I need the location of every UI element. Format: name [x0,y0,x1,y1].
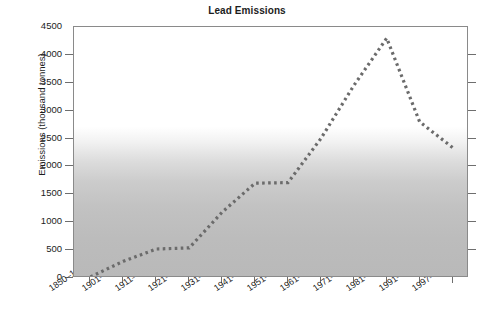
y-tick-mark-right [468,165,476,166]
y-tick-label: 500 [46,243,62,254]
series-dotted-line [90,38,452,277]
y-tick-label: 4500 [41,20,62,31]
y-tick-label: 3000 [41,104,62,115]
y-tick-mark [65,138,73,139]
y-tick-mark-right [468,110,476,111]
y-tick-label: 4000 [41,48,62,59]
y-tick-label: 2500 [41,132,62,143]
chart-title: Lead Emissions [0,5,494,16]
y-tick-mark [65,165,73,166]
plot-area [73,26,468,277]
y-tick-label: 2000 [41,159,62,170]
y-tick-mark [65,54,73,55]
y-tick-label: 1500 [41,187,62,198]
y-tick-label: 3500 [41,76,62,87]
y-tick-mark [65,193,73,194]
y-tick-mark-right [468,82,476,83]
y-tick-mark-right [468,138,476,139]
x-tick-mark [452,277,453,283]
y-tick-mark [65,82,73,83]
y-tick-mark-right [468,193,476,194]
series-lead-emissions [74,27,468,277]
y-tick-mark-right [468,54,476,55]
y-tick-label: 1000 [41,215,62,226]
y-tick-mark [65,221,73,222]
chart-figure: Lead Emissions Emissions (thousand tonne… [0,0,494,325]
y-tick-mark-right [468,221,476,222]
y-tick-mark-right [468,249,476,250]
y-tick-mark [65,110,73,111]
y-tick-mark [65,249,73,250]
